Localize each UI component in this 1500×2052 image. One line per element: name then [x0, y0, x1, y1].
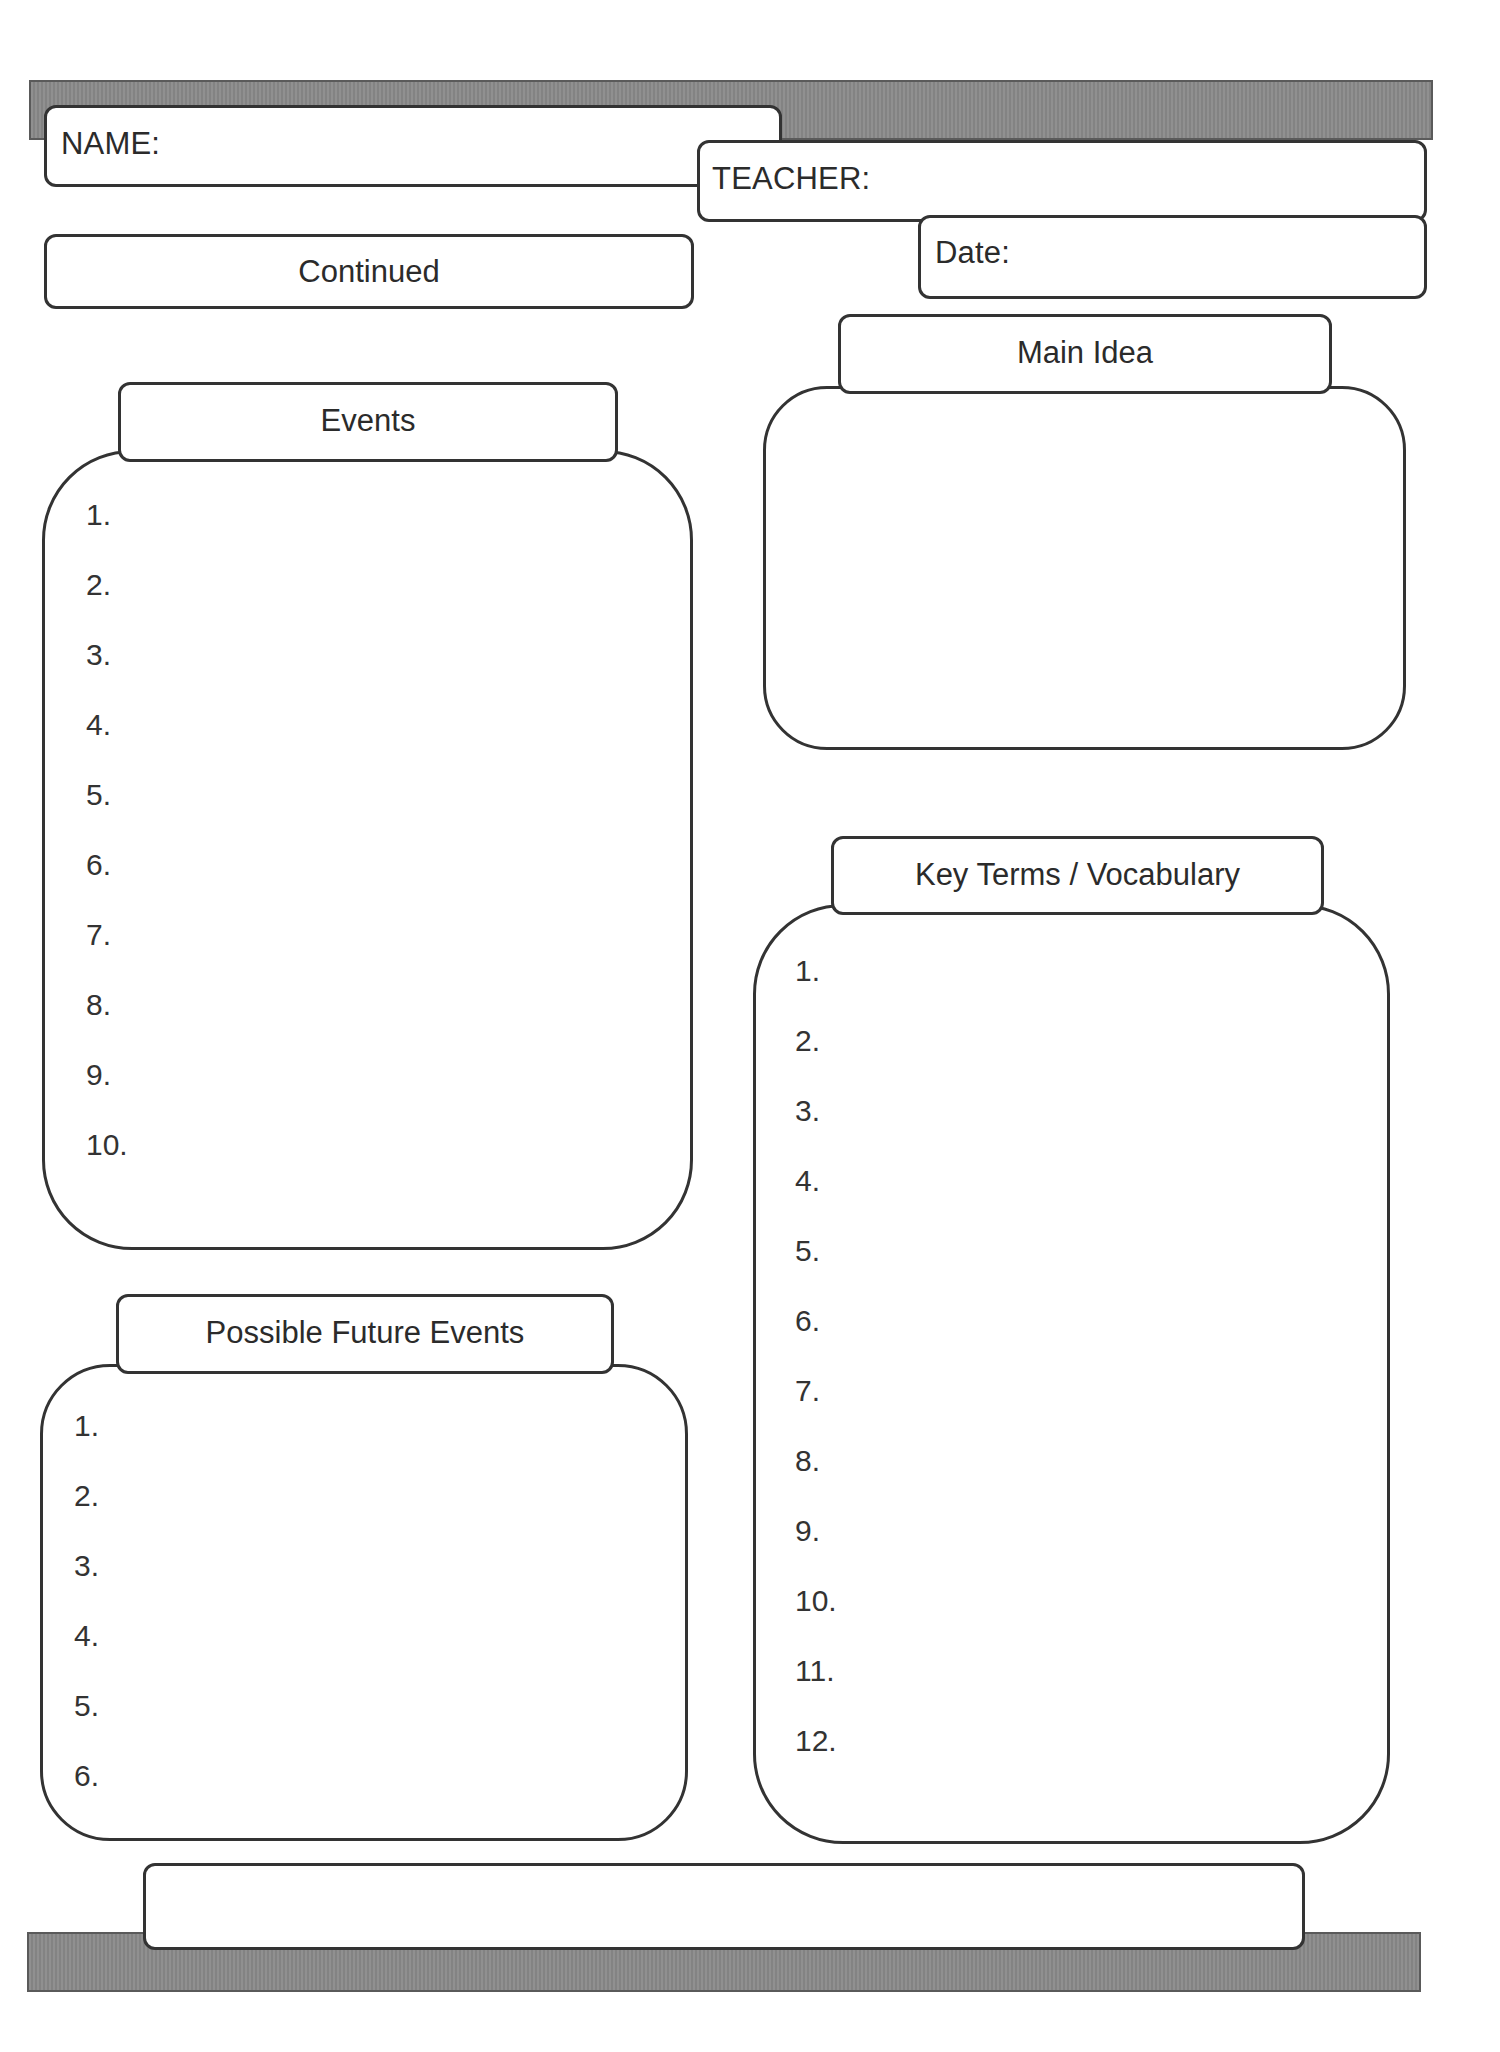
- key-terms-item-number: 6.: [795, 1304, 820, 1338]
- possible-future-events-tab: Possible Future Events: [116, 1294, 614, 1374]
- key-terms-item-number: 7.: [795, 1374, 820, 1408]
- key-terms-item-number: 1.: [795, 954, 820, 988]
- pfe-item-number: 1.: [74, 1409, 99, 1443]
- events-item-number: 9.: [86, 1058, 111, 1092]
- events-item-number: 7.: [86, 918, 111, 952]
- key-terms-item-number: 9.: [795, 1514, 820, 1548]
- main-idea-box[interactable]: [763, 386, 1406, 750]
- key-terms-item-number: 4.: [795, 1164, 820, 1198]
- key-terms-title: Key Terms / Vocabulary: [834, 857, 1321, 893]
- key-terms-item-number: 8.: [795, 1444, 820, 1478]
- key-terms-item-number: 2.: [795, 1024, 820, 1058]
- key-terms-item-number: 10.: [795, 1584, 837, 1618]
- events-item-number: 5.: [86, 778, 111, 812]
- events-item-number: 3.: [86, 638, 111, 672]
- teacher-label: TEACHER:: [712, 161, 870, 197]
- events-box[interactable]: [42, 450, 693, 1250]
- continued-label: Continued: [47, 254, 691, 290]
- pfe-item-number: 6.: [74, 1759, 99, 1793]
- key-terms-tab: Key Terms / Vocabulary: [831, 836, 1324, 915]
- events-item-number: 1.: [86, 498, 111, 532]
- key-terms-item-number: 11.: [795, 1654, 834, 1688]
- name-field[interactable]: NAME:: [44, 105, 782, 187]
- continued-banner: Continued: [44, 234, 694, 309]
- pfe-item-number: 5.: [74, 1689, 99, 1723]
- possible-future-events-box[interactable]: [40, 1364, 688, 1841]
- pfe-item-number: 4.: [74, 1619, 99, 1653]
- events-item-number: 4.: [86, 708, 111, 742]
- events-item-number: 6.: [86, 848, 111, 882]
- main-idea-title: Main Idea: [841, 335, 1329, 371]
- events-item-number: 10.: [86, 1128, 128, 1162]
- pfe-item-number: 2.: [74, 1479, 99, 1513]
- events-item-number: 2.: [86, 568, 111, 602]
- possible-future-events-title: Possible Future Events: [119, 1315, 611, 1351]
- key-terms-item-number: 12.: [795, 1724, 837, 1758]
- key-terms-item-number: 3.: [795, 1094, 820, 1128]
- name-label: NAME:: [61, 126, 160, 162]
- main-idea-tab: Main Idea: [838, 314, 1332, 394]
- date-label: Date:: [935, 235, 1010, 271]
- key-terms-box[interactable]: [753, 904, 1390, 1844]
- footer-box[interactable]: [143, 1863, 1305, 1950]
- events-title: Events: [121, 403, 615, 439]
- key-terms-item-number: 5.: [795, 1234, 820, 1268]
- events-tab: Events: [118, 382, 618, 462]
- pfe-item-number: 3.: [74, 1549, 99, 1583]
- teacher-field[interactable]: TEACHER:: [697, 140, 1427, 222]
- events-item-number: 8.: [86, 988, 111, 1022]
- date-field[interactable]: Date:: [918, 215, 1427, 299]
